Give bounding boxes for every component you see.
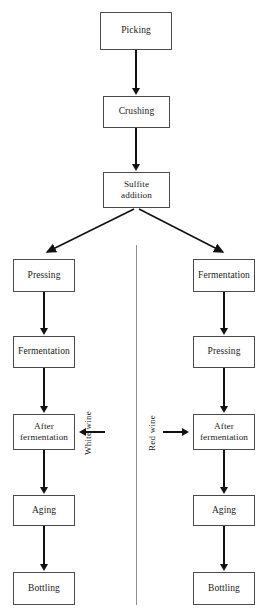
connector-crushing-to-sulfite	[135, 128, 137, 165]
connector-red-3	[223, 450, 225, 488]
connector-picking-to-crushing	[135, 50, 137, 89]
node-red-bottling[interactable]: Bottling	[193, 572, 255, 605]
node-red-fermentation[interactable]: Fermentation	[193, 259, 255, 292]
node-red-aging[interactable]: Aging	[193, 495, 255, 526]
node-red-after-fermentation[interactable]: After fermentation	[193, 414, 255, 450]
connector-white-2	[43, 368, 45, 407]
node-crushing[interactable]: Crushing	[103, 96, 170, 128]
branch-arrow-to-white-wine	[47, 209, 134, 252]
red-wine-pointer-arrowhead	[182, 428, 189, 436]
arrowhead-white-1	[40, 328, 48, 335]
branch-divider-line	[136, 245, 137, 605]
white-wine-branch-label: White wine	[83, 405, 93, 461]
arrowhead-picking-to-crushing	[132, 88, 140, 95]
node-white-fermentation[interactable]: Fermentation	[13, 336, 75, 368]
node-sulfite-addition[interactable]: Sulfite addition	[103, 172, 170, 208]
arrowhead-red-4	[220, 564, 228, 571]
node-white-after-fermentation[interactable]: After fermentation	[13, 414, 75, 450]
connector-red-4	[223, 526, 225, 565]
node-white-pressing[interactable]: Pressing	[13, 259, 75, 292]
branch-arrow-to-red-wine	[139, 209, 223, 252]
arrowhead-crushing-to-sulfite	[132, 164, 140, 171]
connector-white-4	[43, 526, 45, 565]
arrowhead-red-1	[220, 328, 228, 335]
arrowhead-white-2	[40, 406, 48, 413]
node-picking[interactable]: Picking	[100, 12, 172, 50]
arrowhead-white-4	[40, 564, 48, 571]
connector-red-2	[223, 368, 225, 407]
arrowhead-white-3	[40, 487, 48, 494]
arrowhead-red-3	[220, 487, 228, 494]
node-red-pressing[interactable]: Pressing	[193, 336, 255, 368]
connector-red-1	[223, 292, 225, 329]
red-wine-pointer-line	[163, 431, 183, 433]
arrowhead-red-2	[220, 406, 228, 413]
node-white-bottling[interactable]: Bottling	[13, 572, 75, 605]
connector-white-1	[43, 292, 45, 329]
node-white-aging[interactable]: Aging	[13, 495, 75, 526]
red-wine-branch-label: Red wine	[147, 407, 157, 459]
winemaking-flowchart: Picking Crushing Sulfite addition Pressi…	[0, 0, 272, 614]
connector-white-3	[43, 450, 45, 488]
